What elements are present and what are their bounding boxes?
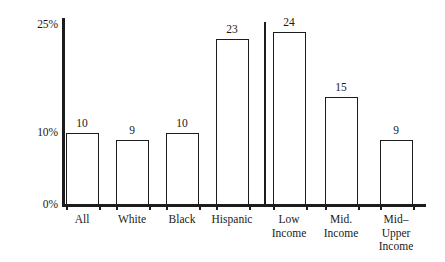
bar[interactable] — [380, 140, 413, 205]
bar-value-label: 9 — [376, 125, 416, 137]
bar[interactable] — [116, 140, 149, 205]
x-axis-tick — [358, 205, 360, 210]
x-axis-tick — [249, 205, 251, 210]
bar[interactable] — [273, 32, 306, 205]
x-axis-tick — [273, 205, 275, 210]
x-axis-tick — [149, 205, 151, 210]
x-axis-category-label: Mid– Upper Income — [358, 213, 434, 254]
bar-value-label: 10 — [62, 118, 102, 130]
bar[interactable] — [216, 39, 249, 205]
bar-value-label: 23 — [212, 24, 252, 36]
x-axis-tick — [216, 205, 218, 210]
x-axis-tick — [306, 205, 308, 210]
bar-chart: 25%10%0% 10All9White10Black23Hispanic24L… — [0, 0, 445, 262]
x-axis-tick — [380, 205, 382, 210]
bar[interactable] — [325, 97, 358, 205]
plot-area: 10All9White10Black23Hispanic24Low Income… — [0, 0, 445, 262]
x-axis-tick — [99, 205, 101, 210]
x-axis-tick — [325, 205, 327, 210]
x-axis-tick — [116, 205, 118, 210]
x-axis-tick — [199, 205, 201, 210]
x-axis-tick — [166, 205, 168, 210]
bar-value-label: 9 — [112, 125, 152, 137]
bar-value-label: 15 — [321, 82, 361, 94]
bar[interactable] — [166, 133, 199, 205]
bar-value-label: 24 — [269, 17, 309, 29]
bar[interactable] — [66, 133, 99, 205]
x-axis-tick — [66, 205, 68, 210]
bar-value-label: 10 — [162, 118, 202, 130]
x-axis-tick — [413, 205, 415, 210]
